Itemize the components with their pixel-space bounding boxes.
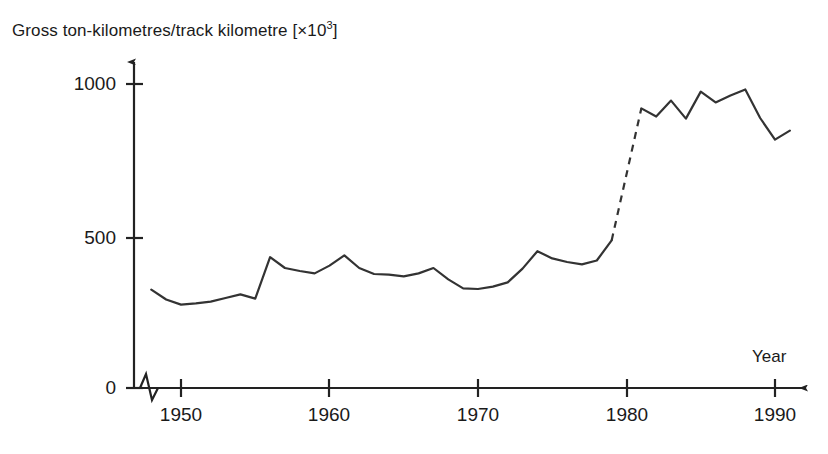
xtick-label-1990: 1990	[754, 404, 796, 426]
chart-title-unit-close: ]	[333, 21, 338, 40]
data-line-dashed-gap	[612, 108, 642, 240]
xtick-label-1960: 1960	[308, 404, 350, 426]
xtick-label-1950: 1950	[160, 404, 202, 426]
ytick-label-1000: 1000	[40, 73, 116, 95]
xtick-label-1980: 1980	[606, 404, 648, 426]
data-line-solid-late	[641, 90, 790, 140]
xtick-label-1970: 1970	[457, 404, 499, 426]
ytick-label-500: 500	[40, 227, 116, 249]
x-axis-name: Year	[752, 347, 786, 367]
data-line-solid-early	[151, 240, 611, 304]
chart-title: Gross ton-kilometres/track kilometre [×1…	[12, 21, 338, 41]
chart-figure: Gross ton-kilometres/track kilometre [×1…	[0, 0, 828, 454]
chart-plot-area	[0, 0, 828, 454]
chart-title-unit-open: [×10	[293, 21, 327, 40]
chart-title-text: Gross ton-kilometres/track kilometre	[12, 21, 288, 40]
ytick-label-0: 0	[40, 377, 116, 399]
